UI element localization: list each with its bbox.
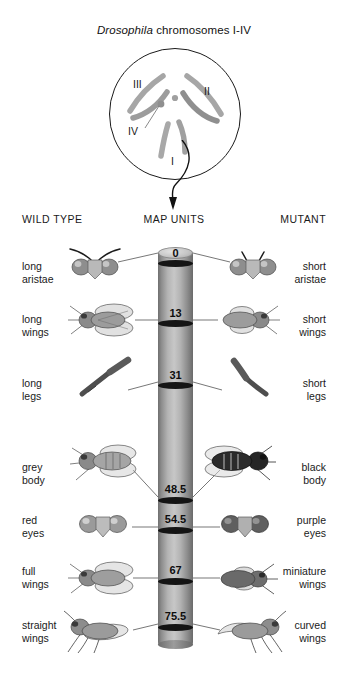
fly-illustration-mutant-short-wings	[212, 298, 286, 342]
map-band-0	[158, 260, 193, 267]
fly-illustration-wild-straight-wings	[62, 608, 140, 654]
fly-illustration-wild-long-aristae	[66, 248, 124, 282]
map-band-75-5	[158, 624, 193, 631]
fly-illustration-mutant-curved-wings	[210, 608, 288, 654]
fly-illustration-wild-full-wings	[62, 556, 136, 600]
map-band-31	[158, 382, 193, 389]
map-unit-label-67: 67	[158, 564, 193, 576]
map-unit-label-31: 31	[158, 369, 193, 381]
fly-illustration-wild-long-wings	[62, 298, 136, 342]
fly-illustration-mutant-short-aristae	[224, 248, 282, 282]
fly-illustration-wild-long-legs	[78, 358, 134, 398]
map-unit-label-13: 13	[158, 307, 193, 319]
map-band-67	[158, 578, 193, 585]
map-unit-label-48-5: 48.5	[158, 483, 193, 495]
fly-illustration-mutant-black-body	[200, 438, 280, 486]
map-unit-label-0: 0	[158, 247, 193, 259]
fly-illustration-mutant-short-legs	[216, 358, 272, 398]
chromosome-map-bar: 0 13 31 48.5 54.5 67 75.5	[158, 247, 193, 645]
map-bar-bottom-cap	[158, 640, 193, 649]
map-band-54-5	[158, 527, 193, 534]
wild-legs-line2: legs	[22, 390, 86, 403]
map-unit-label-54-5: 54.5	[158, 513, 193, 525]
map-band-13	[158, 320, 193, 327]
fly-illustration-mutant-purple-eyes	[218, 506, 272, 540]
fly-illustration-wild-grey-body	[62, 438, 138, 486]
fly-illustration-wild-red-eyes	[76, 506, 130, 540]
map-unit-label-75-5: 75.5	[158, 610, 193, 622]
wild-legs-line1: long	[22, 377, 86, 390]
wild-type-label-legs: long legs	[22, 377, 86, 402]
map-band-48-5	[158, 497, 193, 504]
fly-illustration-mutant-miniature-wings	[210, 556, 284, 600]
